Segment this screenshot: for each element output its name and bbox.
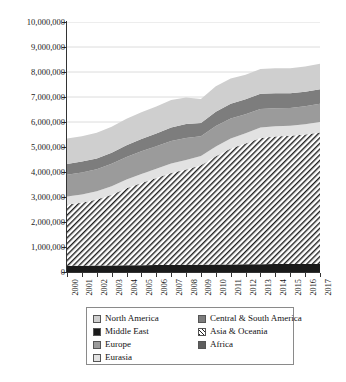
y-axis-line xyxy=(66,21,67,273)
legend-label: Middle East xyxy=(105,327,149,336)
y-tick-label: 2,000,000 xyxy=(31,217,65,227)
y-tick-label: 1,000,000 xyxy=(31,242,65,252)
x-tick-label: 2013 xyxy=(264,279,273,296)
legend-label: Asia & Oceania xyxy=(210,327,267,336)
y-tick-label: 5,000,000 xyxy=(31,142,65,152)
legend-label: Africa xyxy=(210,340,233,349)
legend-swatch-icon xyxy=(93,315,101,323)
x-tick-label: 2009 xyxy=(204,279,213,296)
x-tick xyxy=(216,273,217,277)
legend-item[interactable]: North America xyxy=(93,314,198,323)
x-tick xyxy=(275,273,276,277)
legend-item[interactable]: Europe xyxy=(93,340,198,349)
x-tick-label: 2004 xyxy=(130,279,139,296)
x-tick-label: 2007 xyxy=(175,279,184,296)
legend-label: Eurasia xyxy=(105,353,132,362)
legend-swatch-icon xyxy=(198,315,206,323)
y-tick-label: 7,000,000 xyxy=(31,92,65,102)
x-tick-label: 2000 xyxy=(71,279,80,296)
x-tick-label: 2008 xyxy=(190,279,199,296)
y-tick-label: 8,000,000 xyxy=(31,67,65,77)
plot-area xyxy=(67,22,320,272)
x-tick xyxy=(141,273,142,277)
x-tick xyxy=(171,273,172,277)
x-tick xyxy=(112,273,113,277)
x-tick-label: 2015 xyxy=(294,279,303,296)
x-tick xyxy=(186,273,187,277)
x-tick xyxy=(82,273,83,277)
legend-swatch-icon xyxy=(93,341,101,349)
y-tick-label: 3,000,000 xyxy=(31,192,65,202)
legend-swatch-icon xyxy=(198,341,206,349)
legend-item[interactable]: Africa xyxy=(198,340,302,349)
x-tick xyxy=(246,273,247,277)
x-tick xyxy=(127,273,128,277)
legend-item[interactable]: Middle East xyxy=(93,327,198,336)
x-tick-label: 2011 xyxy=(234,279,243,295)
legend-label: Central & South America xyxy=(210,314,302,323)
legend-item[interactable]: Asia & Oceania xyxy=(198,327,302,336)
y-tick-label: 6,000,000 xyxy=(31,117,65,127)
chart-legend: North AmericaCentral & South AmericaMidd… xyxy=(86,307,294,365)
x-tick xyxy=(156,273,157,277)
legend-label: North America xyxy=(105,314,159,323)
y-tick-label: 4,000,000 xyxy=(31,167,65,177)
x-tick-label: 2006 xyxy=(160,279,169,296)
x-tick xyxy=(231,273,232,277)
x-tick-label: 2005 xyxy=(145,279,154,296)
x-tick xyxy=(260,273,261,277)
y-tick-label: 9,000,000 xyxy=(31,42,65,52)
legend-item[interactable]: Eurasia xyxy=(93,353,198,362)
x-tick-label: 2002 xyxy=(100,279,109,296)
legend-swatch-icon xyxy=(93,354,101,362)
legend-item[interactable]: Central & South America xyxy=(198,314,302,323)
stacked-area-chart: 01,000,0002,000,0003,000,0004,000,0005,0… xyxy=(0,0,346,382)
y-tick-label: 10,000,000 xyxy=(27,17,65,27)
legend-label: Europe xyxy=(105,340,131,349)
x-tick xyxy=(97,273,98,277)
area-series-group xyxy=(67,22,320,272)
x-tick xyxy=(201,273,202,277)
x-tick-label: 2010 xyxy=(219,279,228,296)
x-tick-label: 2014 xyxy=(279,279,288,296)
x-tick-label: 2001 xyxy=(85,279,94,296)
x-axis-line xyxy=(66,272,320,273)
x-tick-label: 2012 xyxy=(249,279,258,296)
x-tick-label: 2016 xyxy=(309,279,318,296)
x-tick-label: 2003 xyxy=(115,279,124,296)
x-tick xyxy=(320,273,321,277)
x-tick-label: 2017 xyxy=(324,279,333,296)
legend-swatch-icon xyxy=(198,328,206,336)
x-tick xyxy=(67,273,68,277)
legend-swatch-icon xyxy=(93,328,101,336)
y-tick-label: 0 xyxy=(61,267,65,277)
x-tick xyxy=(290,273,291,277)
x-tick xyxy=(305,273,306,277)
